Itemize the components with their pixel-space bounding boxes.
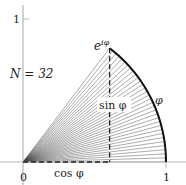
y-tick-label: 1 <box>13 13 20 26</box>
cos-label: cos φ <box>54 167 84 180</box>
origin-label: 0 <box>20 171 27 184</box>
sin-label: sin φ <box>99 99 127 112</box>
apex-label-base: e <box>94 39 101 53</box>
n-label: N = 32 <box>9 67 53 81</box>
ray-line <box>23 77 138 162</box>
ray-line <box>23 106 155 162</box>
apex-label-sup: iφ <box>101 38 110 47</box>
unit-circle-diagram: 1 1 0 N = 32 cos φ sin φ φ eiφ <box>0 0 186 185</box>
apex-label: eiφ <box>94 38 110 53</box>
x-tick-label: 1 <box>163 171 170 184</box>
arc-label: φ <box>155 94 163 107</box>
polygon-rays <box>23 48 166 162</box>
